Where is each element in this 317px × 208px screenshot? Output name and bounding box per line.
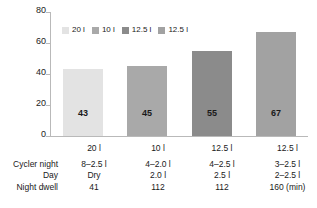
legend-swatch-icon [158, 27, 165, 34]
table-cell: 2.0 l [126, 170, 190, 182]
category-label: 20 l [62, 139, 126, 159]
category-row-head [0, 139, 62, 159]
category-label: 12.5 l [190, 139, 254, 159]
bar-value-label: 43 [63, 109, 103, 118]
bar-slot: 55 [192, 12, 232, 136]
y-tick-label: 0 [41, 130, 46, 139]
y-tick-label: 40 [36, 68, 46, 77]
table-cell: 160 (min) [254, 182, 317, 194]
table-row: Night dwell 41 112 112 160 (min) [0, 182, 317, 194]
plot-area: 80 60 40 20 0 43 45 55 [0, 0, 317, 145]
y-tick-mark [46, 74, 50, 75]
category-label: 10 l [126, 139, 190, 159]
legend-item[interactable]: 20 l [62, 26, 85, 34]
bar-value-label: 55 [192, 109, 232, 118]
chart-figure: 80 60 40 20 0 43 45 55 [0, 0, 317, 208]
table-cell: 112 [126, 182, 190, 194]
y-tick-label: 80 [36, 6, 46, 15]
legend-item[interactable]: 12.5 l [158, 26, 188, 34]
row-label: Day [0, 170, 62, 182]
table-row: Day Dry 2.0 l 2.5 l 2–2.5 l [0, 170, 317, 182]
table-row: Cycler night 8–2.5 l 4–2.0 l 4–2.5 l 3–2… [0, 159, 317, 171]
legend-swatch-icon [122, 27, 129, 34]
chart-legend: 20 l 10 l 12.5 l 12.5 l [62, 26, 188, 34]
bar-series-1[interactable] [127, 66, 167, 136]
y-tick-mark [46, 136, 50, 137]
category-row: 20 l 10 l 12.5 l 12.5 l [0, 139, 317, 159]
x-axis-line [50, 136, 308, 137]
y-tick-mark [46, 43, 50, 44]
table-cell: 8–2.5 l [62, 159, 126, 171]
row-label: Night dwell [0, 182, 62, 194]
legend-item-label: 20 l [72, 26, 85, 34]
bar-value-label: 67 [256, 109, 296, 118]
table-cell: 112 [190, 182, 254, 194]
y-tick-mark [46, 12, 50, 13]
legend-item-label: 10 l [102, 26, 115, 34]
table-cell: Dry [62, 170, 126, 182]
legend-item[interactable]: 10 l [92, 26, 115, 34]
table-cell: 4–2.0 l [126, 159, 190, 171]
table-cell: 4–2.5 l [190, 159, 254, 171]
legend-item-label: 12.5 l [168, 26, 188, 34]
bar-series-0[interactable] [63, 69, 103, 136]
table-cell: 2.5 l [190, 170, 254, 182]
category-label: 12.5 l [254, 139, 317, 159]
legend-swatch-icon [92, 27, 99, 34]
y-tick-mark [46, 105, 50, 106]
legend-swatch-icon [62, 27, 69, 34]
table-cell: 2–2.5 l [254, 170, 317, 182]
table-cell: 3–2.5 l [254, 159, 317, 171]
bar-value-label: 45 [127, 109, 167, 118]
y-axis: 80 60 40 20 0 [20, 10, 46, 136]
y-tick-label: 60 [36, 37, 46, 46]
legend-item[interactable]: 12.5 l [122, 26, 152, 34]
y-tick-label: 20 [36, 99, 46, 108]
bar-series-2[interactable] [192, 51, 232, 136]
annotation-table: 20 l 10 l 12.5 l 12.5 l Cycler night 8–2… [0, 139, 317, 208]
row-label: Cycler night [0, 159, 62, 171]
bar-slot: 67 [256, 12, 296, 136]
legend-item-label: 12.5 l [132, 26, 152, 34]
bar-series-3[interactable] [256, 32, 296, 136]
table-cell: 41 [62, 182, 126, 194]
